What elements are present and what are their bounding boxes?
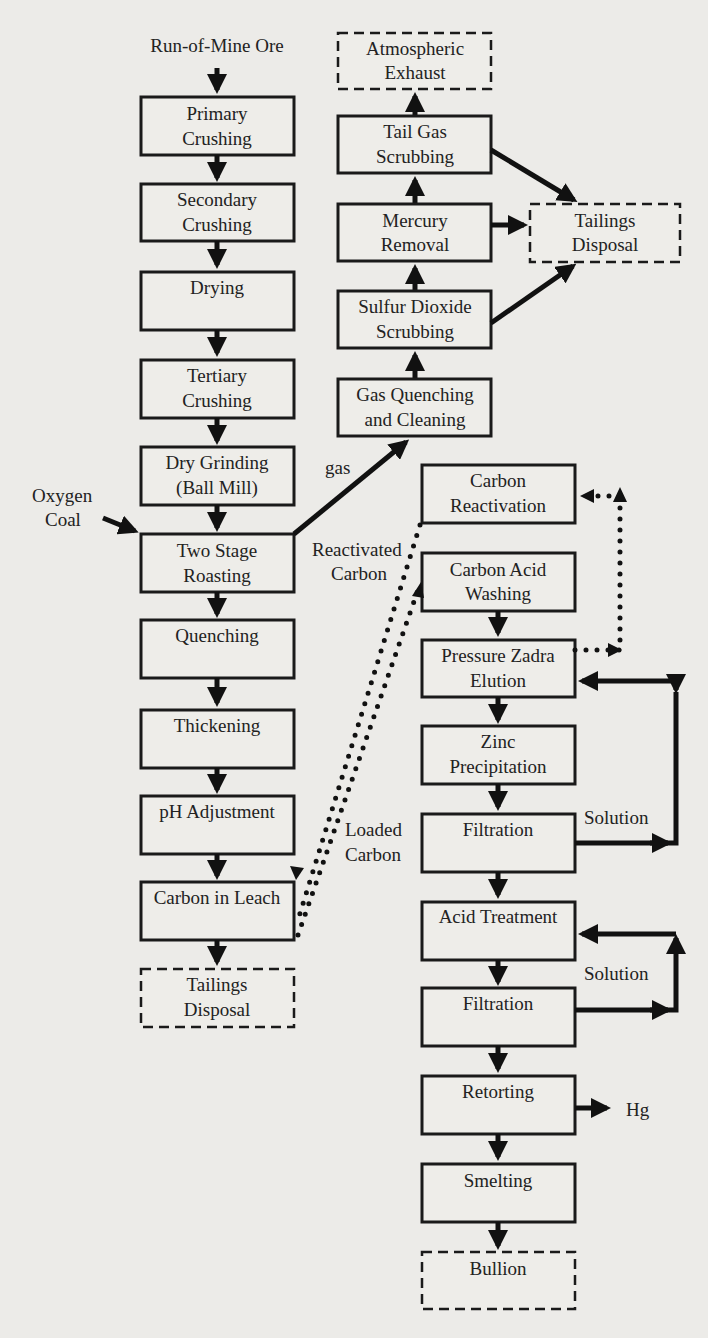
- box-secondary-crushing[interactable]: Secondary Crushing: [141, 184, 294, 241]
- box-dry-grinding[interactable]: Dry Grinding (Ball Mill): [141, 447, 294, 505]
- svg-text:Sulfur Dioxide: Sulfur Dioxide: [358, 296, 471, 317]
- box-filtration-1[interactable]: Filtration: [422, 814, 575, 872]
- terminal-tailings-disposal-right[interactable]: Tailings Disposal: [530, 204, 680, 262]
- process-flow-diagram: Run-of-Mine Ore Primary Crushing Seconda…: [0, 0, 708, 1338]
- svg-text:Precipitation: Precipitation: [449, 756, 547, 777]
- input-oxygen: Oxygen: [32, 485, 93, 506]
- label-solution-1: Solution: [584, 807, 649, 828]
- box-ph-adjustment[interactable]: pH Adjustment: [141, 796, 294, 854]
- arrow-tailgas-to-tailings: [491, 150, 574, 200]
- svg-text:Retorting: Retorting: [462, 1081, 534, 1102]
- input-coal: Coal: [45, 509, 81, 530]
- svg-text:Atmospheric: Atmospheric: [366, 38, 464, 59]
- svg-text:Washing: Washing: [465, 583, 532, 604]
- dotted-loaded-carbon-to-acidwash: [298, 590, 418, 935]
- svg-text:Primary: Primary: [186, 103, 248, 124]
- box-carbon-reactivation[interactable]: Carbon Reactivation: [422, 465, 575, 523]
- svg-text:Tailings: Tailings: [575, 210, 636, 231]
- svg-text:Two Stage: Two Stage: [177, 540, 257, 561]
- arrow-so2-to-tailings: [491, 266, 573, 323]
- svg-text:Disposal: Disposal: [184, 999, 251, 1020]
- box-tertiary-crushing[interactable]: Tertiary Crushing: [141, 360, 294, 418]
- label-reactivated: Reactivated: [312, 539, 402, 560]
- box-acid-treatment[interactable]: Acid Treatment: [422, 902, 575, 960]
- box-thickening[interactable]: Thickening: [141, 710, 294, 768]
- arrowhead-right-zadra-out: [608, 643, 622, 657]
- svg-text:Roasting: Roasting: [183, 565, 251, 586]
- svg-text:Filtration: Filtration: [463, 993, 534, 1014]
- terminal-atmospheric-exhaust[interactable]: Atmospheric Exhaust: [338, 33, 491, 89]
- svg-text:Elution: Elution: [470, 670, 526, 691]
- arrowhead-left-reactivation: [580, 489, 594, 503]
- svg-text:Scrubbing: Scrubbing: [376, 146, 455, 167]
- arrow-oxygen-coal-to-roasting: [103, 518, 135, 531]
- label-hg: Hg: [626, 1099, 650, 1120]
- svg-text:Crushing: Crushing: [182, 214, 252, 235]
- box-retorting[interactable]: Retorting: [422, 1076, 575, 1134]
- svg-text:Quenching: Quenching: [175, 625, 259, 646]
- label-gas: gas: [325, 457, 350, 478]
- svg-text:Gas Quenching: Gas Quenching: [356, 384, 474, 405]
- svg-text:Carbon Acid: Carbon Acid: [450, 559, 547, 580]
- box-zinc-precipitation[interactable]: Zinc Precipitation: [422, 726, 575, 784]
- svg-text:Carbon: Carbon: [470, 470, 526, 491]
- box-pressure-zadra-elution[interactable]: Pressure Zadra Elution: [422, 640, 575, 697]
- box-gas-quenching-cleaning[interactable]: Gas Quenching and Cleaning: [338, 379, 491, 436]
- box-quenching[interactable]: Quenching: [141, 620, 294, 678]
- svg-text:Bullion: Bullion: [469, 1258, 527, 1279]
- label-solution-2: Solution: [584, 963, 649, 984]
- svg-text:Tailings: Tailings: [187, 974, 248, 995]
- svg-text:Mercury: Mercury: [382, 210, 448, 231]
- svg-text:Tail Gas: Tail Gas: [383, 121, 447, 142]
- label-reactivated-carbon: Carbon: [331, 563, 387, 584]
- svg-text:Zinc: Zinc: [481, 731, 516, 752]
- svg-text:Crushing: Crushing: [182, 128, 252, 149]
- loop-zadra-to-reactivation-dotted: [575, 504, 620, 650]
- input-run-of-mine-ore: Run-of-Mine Ore: [150, 35, 284, 56]
- box-two-stage-roasting[interactable]: Two Stage Roasting: [141, 534, 294, 592]
- svg-text:Tertiary: Tertiary: [187, 365, 247, 386]
- svg-text:Filtration: Filtration: [463, 819, 534, 840]
- svg-text:Dry Grinding: Dry Grinding: [166, 452, 269, 473]
- box-primary-crushing[interactable]: Primary Crushing: [141, 97, 294, 155]
- terminal-tailings-disposal-left[interactable]: Tailings Disposal: [141, 969, 294, 1027]
- terminal-bullion[interactable]: Bullion: [422, 1252, 575, 1309]
- svg-text:Crushing: Crushing: [182, 390, 252, 411]
- box-mercury-removal[interactable]: Mercury Removal: [338, 204, 491, 261]
- box-carbon-acid-washing[interactable]: Carbon Acid Washing: [422, 553, 575, 611]
- label-loaded-carbon: Carbon: [345, 844, 401, 865]
- svg-text:Smelting: Smelting: [464, 1170, 533, 1191]
- svg-text:pH Adjustment: pH Adjustment: [159, 801, 275, 822]
- box-tail-gas-scrubbing[interactable]: Tail Gas Scrubbing: [338, 116, 491, 173]
- svg-text:Acid Treatment: Acid Treatment: [439, 906, 558, 927]
- svg-text:and Cleaning: and Cleaning: [365, 409, 466, 430]
- svg-text:Removal: Removal: [381, 234, 450, 255]
- svg-text:Scrubbing: Scrubbing: [376, 321, 455, 342]
- svg-text:Carbon in Leach: Carbon in Leach: [154, 887, 281, 908]
- svg-text:Disposal: Disposal: [572, 234, 639, 255]
- svg-text:Drying: Drying: [190, 277, 244, 298]
- box-carbon-in-leach[interactable]: Carbon in Leach: [141, 882, 294, 940]
- svg-text:Reactivation: Reactivation: [450, 495, 547, 516]
- box-smelting[interactable]: Smelting: [422, 1164, 575, 1222]
- svg-text:(Ball Mill): (Ball Mill): [176, 477, 258, 499]
- box-sulfur-dioxide-scrubbing[interactable]: Sulfur Dioxide Scrubbing: [338, 291, 491, 348]
- arrowhead-up-dotted: [613, 487, 627, 502]
- label-loaded: Loaded: [345, 819, 402, 840]
- box-filtration-2[interactable]: Filtration: [422, 988, 575, 1046]
- box-drying[interactable]: Drying: [141, 272, 294, 330]
- svg-text:Secondary: Secondary: [177, 189, 258, 210]
- svg-text:Exhaust: Exhaust: [384, 62, 446, 83]
- arrow-roasting-gas-to-quench: [294, 442, 406, 534]
- svg-text:Thickening: Thickening: [174, 715, 261, 736]
- arrowhead-to-cil: [290, 866, 304, 880]
- svg-text:Pressure Zadra: Pressure Zadra: [441, 645, 555, 666]
